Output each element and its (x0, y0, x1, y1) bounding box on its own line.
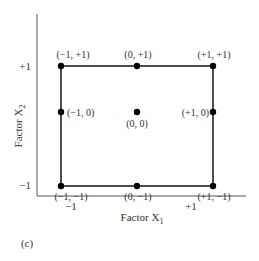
point-m1-m1 (58, 183, 64, 189)
point-label: (0, −1) (124, 191, 151, 203)
point-label: (0, 0) (126, 118, 148, 130)
point-label: (+1, 0) (182, 107, 209, 119)
x-tick-label: +1 (185, 200, 197, 212)
x-axis-label: Factor X1 (121, 211, 164, 226)
point-label: (−1, 0) (67, 107, 94, 119)
y-tick-label: −1 (19, 179, 31, 191)
point-label: (0, +1) (124, 49, 151, 61)
point-label: (+1, −1) (198, 191, 231, 203)
point-label: (+1, +1) (198, 49, 231, 61)
point-0-0 (134, 109, 140, 115)
design-space-diagram: (−1, +1) (0, +1) (+1, +1) (−1, 0) (0, 0)… (0, 0, 259, 261)
point-m1-0 (58, 109, 64, 115)
point-p1-0 (210, 109, 216, 115)
point-p1-m1 (210, 183, 216, 189)
point-0-p1 (134, 63, 140, 69)
x-tick-label: −1 (65, 200, 77, 212)
point-m1-p1 (58, 63, 64, 69)
y-axis-label: Factor X2 (12, 105, 27, 148)
y-tick-label: +1 (19, 60, 31, 72)
point-0-m1 (134, 183, 140, 189)
point-p1-p1 (210, 63, 216, 69)
point-label: (−1, +1) (57, 49, 90, 61)
panel-label: (c) (21, 237, 34, 250)
